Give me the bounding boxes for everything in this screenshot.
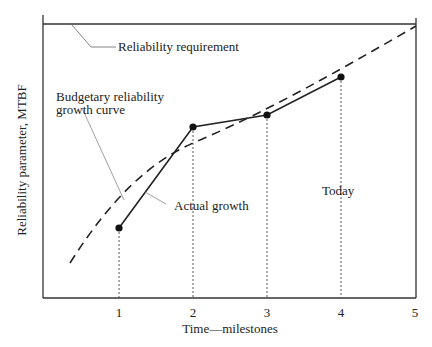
actual-growth-label: Actual growth xyxy=(174,198,249,213)
x-axis-label: Time—milestones xyxy=(182,321,278,336)
x-tick-4: 4 xyxy=(338,305,345,320)
reliability-growth-diagram: Reliability requirement Budgetary reliab… xyxy=(0,0,432,347)
x-tick-2: 2 xyxy=(190,305,197,320)
milestone-dotted-lines xyxy=(119,77,341,298)
today-label: Today xyxy=(322,183,355,198)
requirement-label: Reliability requirement xyxy=(118,39,239,54)
y-axis-label: Reliability parameter, MTBF xyxy=(14,84,29,235)
budget-leader xyxy=(82,108,124,200)
x-tick-5: 5 xyxy=(412,305,419,320)
actual-leader xyxy=(145,192,166,204)
requirement-leader xyxy=(72,25,116,47)
x-tick-3: 3 xyxy=(264,305,271,320)
budget-label-line2: growth curve xyxy=(56,102,125,117)
x-tick-1: 1 xyxy=(116,305,123,320)
